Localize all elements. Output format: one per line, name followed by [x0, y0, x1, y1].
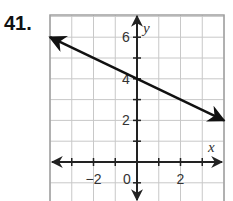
- x-tick-label: −2: [86, 171, 102, 187]
- y-axis-label: y: [141, 20, 150, 36]
- x-tick-label: 0: [123, 171, 131, 187]
- x-tick-label: 2: [177, 171, 185, 187]
- y-tick-label: 2: [122, 112, 130, 128]
- y-tick-label: 6: [122, 29, 130, 45]
- x-axis-label: x: [207, 139, 215, 155]
- coordinate-graph: −202246xy: [0, 0, 233, 201]
